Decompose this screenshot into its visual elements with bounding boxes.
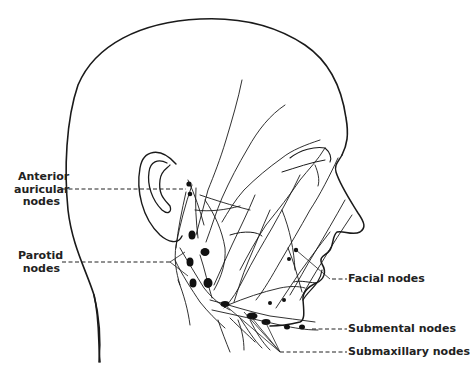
ear-inner <box>149 161 171 213</box>
node-parotid-1 <box>189 231 196 240</box>
eye-lid <box>315 165 319 186</box>
node-small-2 <box>268 301 272 305</box>
node-anterior-auricular-2 <box>188 192 193 197</box>
lymphatic-vessels <box>175 80 352 352</box>
label-facial-nodes: Facial nodes <box>348 273 425 286</box>
label-parotid: Parotid nodes <box>18 250 60 275</box>
node-submaxillary-1 <box>221 301 230 307</box>
node-parotid-5 <box>204 278 213 288</box>
node-facial-2 <box>287 257 291 261</box>
node-parotid-3 <box>187 258 194 267</box>
label-line: Anterior <box>18 171 60 184</box>
label-line: nodes <box>18 263 60 276</box>
node-submental-1 <box>284 325 290 330</box>
cheek-crease <box>230 232 262 236</box>
ear-outer <box>139 152 182 241</box>
node-submaxillary-3 <box>262 319 271 325</box>
node-submental-2 <box>299 325 305 330</box>
label-line: nodes <box>18 196 60 209</box>
node-anterior-auricular-1 <box>186 181 191 186</box>
node-parotid-2 <box>201 248 210 256</box>
label-submaxillary-nodes: Submaxillary nodes <box>348 346 470 359</box>
node-parotid-4 <box>190 279 197 288</box>
label-anterior-auricular: Anterior auricular nodes <box>18 171 60 209</box>
eye-lower <box>282 160 325 172</box>
node-small-1 <box>282 298 286 302</box>
label-line: Parotid <box>18 250 60 263</box>
label-submental-nodes: Submental nodes <box>348 323 456 336</box>
